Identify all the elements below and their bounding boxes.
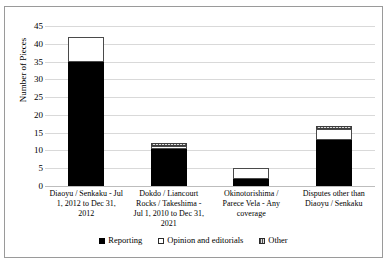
bar-segment-opinion-and-editorials[interactable] bbox=[151, 146, 187, 149]
y-axis-tick-labels: 051015202530354045 bbox=[19, 26, 43, 186]
bar-segment-opinion-and-editorials[interactable] bbox=[233, 168, 269, 179]
y-tick-label-45: 45 bbox=[34, 22, 43, 31]
y-tick-label-5: 5 bbox=[39, 164, 44, 173]
chart-legend: ReportingOpinion and editorialsOther bbox=[5, 236, 382, 245]
bar-group[interactable] bbox=[151, 26, 187, 186]
legend-item[interactable]: Other bbox=[259, 236, 287, 245]
bar-group[interactable] bbox=[68, 26, 104, 186]
bar-group[interactable] bbox=[233, 26, 269, 186]
bar-segment-opinion-and-editorials[interactable] bbox=[68, 37, 104, 62]
bar-segment-other[interactable] bbox=[316, 126, 352, 130]
opinion-swatch bbox=[158, 238, 164, 244]
x-axis-category-labels: Diaoyu / Senkaku - Jul 1, 2012 to Dec 31… bbox=[45, 189, 375, 235]
y-tick-label-0: 0 bbox=[39, 182, 44, 191]
y-tick-label-15: 15 bbox=[34, 128, 43, 137]
bar-segment-reporting[interactable] bbox=[233, 179, 269, 186]
x-axis-label: Dokdo / Liancourt Rocks / Takeshima - Ju… bbox=[131, 189, 208, 229]
chart-frame: Number of Pieces 051015202530354045 Diao… bbox=[4, 6, 383, 258]
y-tick-label-25: 25 bbox=[34, 93, 43, 102]
plot-area bbox=[45, 26, 375, 186]
gridline-0 bbox=[45, 186, 375, 187]
y-tick-label-30: 30 bbox=[34, 75, 43, 84]
other-swatch bbox=[259, 238, 265, 244]
bar-segment-reporting[interactable] bbox=[68, 62, 104, 186]
bars-layer bbox=[45, 26, 375, 186]
y-tick-label-20: 20 bbox=[34, 110, 43, 119]
y-tick-label-35: 35 bbox=[34, 57, 43, 66]
bar-segment-opinion-and-editorials[interactable] bbox=[316, 129, 352, 140]
y-tick-label-10: 10 bbox=[34, 146, 43, 155]
x-axis-label: Diaoyu / Senkaku - Jul 1, 2012 to Dec 31… bbox=[48, 189, 125, 219]
x-axis-label: Okinotorishima / Parece Vela - Any cover… bbox=[213, 189, 290, 219]
legend-label: Opinion and editorials bbox=[167, 236, 243, 245]
bar-group[interactable] bbox=[316, 26, 352, 186]
y-tick-label-40: 40 bbox=[34, 39, 43, 48]
bar-segment-reporting[interactable] bbox=[151, 149, 187, 186]
bar-segment-reporting[interactable] bbox=[316, 140, 352, 186]
legend-label: Reporting bbox=[108, 236, 142, 245]
reporting-swatch bbox=[99, 238, 105, 244]
legend-item[interactable]: Opinion and editorials bbox=[158, 236, 243, 245]
legend-item[interactable]: Reporting bbox=[99, 236, 142, 245]
legend-label: Other bbox=[268, 236, 287, 245]
x-axis-label: Disputes other than Diaoyu / Senkaku bbox=[296, 189, 373, 209]
bar-segment-other[interactable] bbox=[151, 143, 187, 145]
